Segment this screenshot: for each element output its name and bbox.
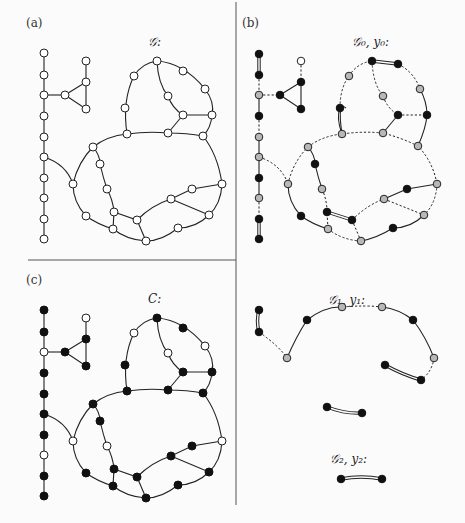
panel-a: (a) 𝒢: [26,16,226,245]
panel-label-c: (c) [26,273,42,287]
panel-label-a: (a) [26,16,43,30]
edges-c [44,310,222,498]
panel-c: (c) C: [26,273,226,502]
nodes-c [40,306,226,502]
panel-d: 𝒢₁, y₁: 𝒢₂, y₂: [255,293,438,483]
nodes-a [40,49,226,245]
edges-a [44,53,222,241]
nodes-g1 [255,303,438,417]
graph-title-a: 𝒢: [148,35,161,49]
panel-b: (b) 𝒢₀, y₀: [242,16,441,245]
graph-title-c: C: [148,292,161,306]
graph-title-g1: 𝒢₁, y₁: [328,293,365,307]
figure: (a) 𝒢: [0,0,465,523]
graph-title-b: 𝒢₀, y₀: [352,35,389,49]
nodes-b [255,50,441,245]
edges-b [259,54,437,241]
edges-g2 [341,477,382,479]
panel-label-b: (b) [242,16,259,30]
graph-title-g2: 𝒢₂, y₂: [330,452,367,466]
